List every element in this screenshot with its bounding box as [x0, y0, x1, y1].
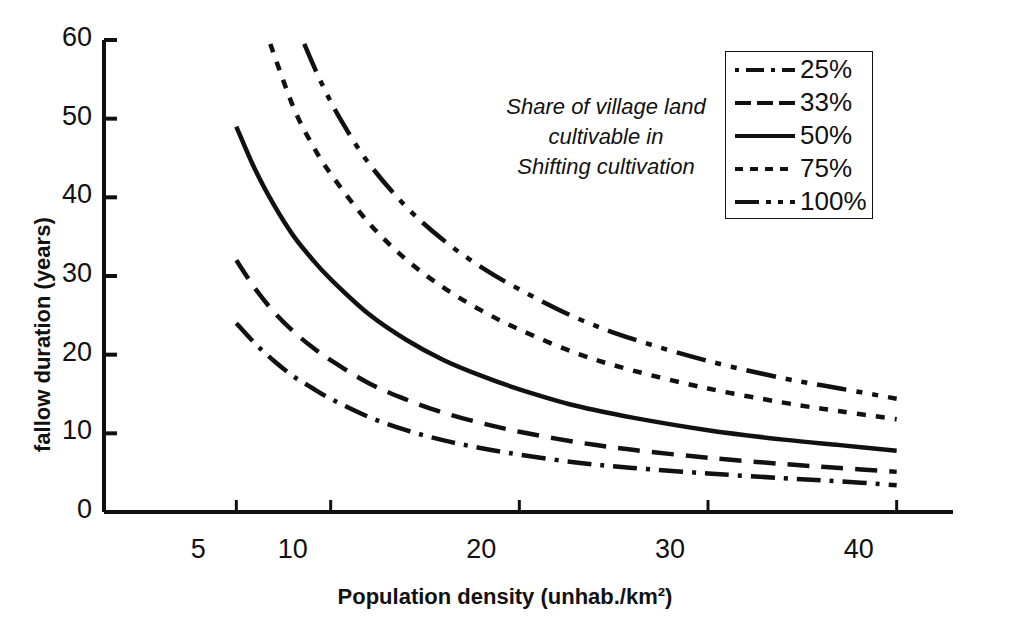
- x-axis-tick-label: 20: [445, 534, 517, 565]
- y-axis-title: fallow duration (years): [30, 217, 56, 452]
- legend-item-25pct[interactable]: 25%: [726, 53, 874, 86]
- x-axis-tick-label: 30: [634, 534, 706, 565]
- legend-swatch-25pct: [734, 63, 796, 77]
- legend-label-75pct: 75%: [800, 153, 852, 184]
- legend-item-75pct[interactable]: 75%: [726, 152, 874, 185]
- y-axis-tick-label: 50: [0, 101, 92, 132]
- legend-label-50pct: 50%: [800, 120, 852, 151]
- legend-item-33pct[interactable]: 33%: [726, 86, 874, 119]
- x-axis-tick-label: 40: [823, 534, 895, 565]
- legend-swatch-33pct: [734, 96, 796, 110]
- chart-figure: 0102030405060 510203040 fallow duration …: [0, 0, 1010, 624]
- legend-swatch-100pct: [734, 195, 796, 209]
- legend-swatch-75pct: [734, 162, 796, 176]
- x-axis-tick-label: 10: [257, 534, 329, 565]
- annotation-line-3: Shifting cultivation: [497, 152, 715, 182]
- legend-item-50pct[interactable]: 50%: [726, 119, 874, 152]
- legend-label-25pct: 25%: [800, 54, 852, 85]
- legend-swatch-50pct: [734, 129, 796, 143]
- legend-annotation-text: Share of village land cultivable in Shif…: [497, 92, 715, 182]
- legend-label-33pct: 33%: [800, 87, 852, 118]
- legend-label-100pct: 100%: [800, 186, 867, 217]
- annotation-line-2: cultivable in: [497, 122, 715, 152]
- x-axis-tick-label: 5: [162, 534, 234, 565]
- chart-legend: 25%33%50%75%100%: [725, 51, 873, 219]
- legend-item-100pct[interactable]: 100%: [726, 185, 874, 218]
- y-axis-tick-label: 0: [0, 494, 92, 525]
- y-axis-tick-label: 40: [0, 179, 92, 210]
- y-axis-tick-label: 60: [0, 22, 92, 53]
- annotation-line-1: Share of village land: [497, 92, 715, 122]
- x-axis-title: Population density (unhab./km²): [0, 584, 1010, 610]
